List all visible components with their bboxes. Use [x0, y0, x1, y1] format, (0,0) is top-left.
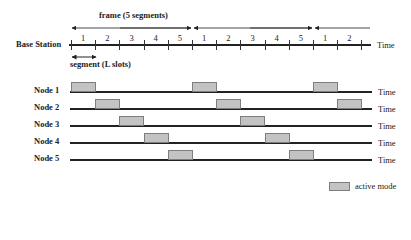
- axis-tick: [361, 40, 362, 50]
- active-mode-block: [313, 82, 338, 92]
- active-mode-block: [289, 150, 314, 160]
- node-time-label: Time: [378, 88, 396, 97]
- axis-tick: [289, 40, 290, 50]
- segment-number: 5: [299, 34, 303, 43]
- active-mode-block: [119, 116, 144, 126]
- axis-tick: [95, 40, 96, 50]
- segment-label: segment (L slots): [70, 60, 131, 69]
- legend-active-swatch: [329, 182, 350, 191]
- segment-number: 2: [105, 34, 109, 43]
- node-time-label: Time: [378, 139, 396, 148]
- segment-number: 1: [81, 34, 85, 43]
- segment-number: 4: [154, 34, 158, 43]
- axis-tick: [119, 40, 120, 50]
- segment-number: 4: [275, 34, 279, 43]
- active-mode-block: [216, 99, 241, 109]
- node-time-label: Time: [378, 105, 396, 114]
- active-mode-block: [192, 82, 217, 92]
- segment-number: 3: [129, 34, 133, 43]
- base-station-time-label: Time: [377, 41, 395, 50]
- axis-tick: [240, 40, 241, 50]
- axis-tick: [216, 40, 217, 50]
- node-timeline: [70, 125, 372, 127]
- active-mode-block: [95, 99, 120, 109]
- base-station-axis: [69, 44, 371, 46]
- segment-number: 3: [250, 34, 254, 43]
- segment-number: 1: [323, 34, 327, 43]
- axis-tick: [337, 40, 338, 50]
- segment-number: 2: [226, 34, 230, 43]
- axis-tick: [313, 40, 314, 50]
- axis-tick: [192, 40, 193, 50]
- base-station-label: Base Station: [16, 40, 61, 49]
- node-timeline: [70, 142, 372, 144]
- node-label: Node 2: [34, 103, 59, 112]
- node-time-label: Time: [378, 156, 396, 165]
- segment-number: 5: [178, 34, 182, 43]
- legend-active-label: active mode: [355, 182, 396, 191]
- axis-tick: [168, 40, 169, 50]
- node-timeline: [70, 159, 372, 161]
- node-label: Node 4: [34, 137, 59, 146]
- axis-tick: [144, 40, 145, 50]
- active-mode-block: [337, 99, 362, 109]
- active-mode-block: [265, 133, 290, 143]
- axis-tick: [265, 40, 266, 50]
- axis-tick: [71, 40, 72, 50]
- active-mode-block: [168, 150, 193, 160]
- node-time-label: Time: [378, 122, 396, 131]
- active-mode-block: [240, 116, 265, 126]
- active-mode-block: [144, 133, 169, 143]
- active-mode-block: [71, 82, 96, 92]
- segment-number: 1: [202, 34, 206, 43]
- node-label: Node 1: [34, 86, 59, 95]
- node-label: Node 5: [34, 154, 59, 163]
- node-label: Node 3: [34, 120, 59, 129]
- segment-number: 2: [347, 34, 351, 43]
